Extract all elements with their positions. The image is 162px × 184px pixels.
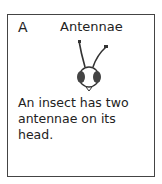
card-description: An insect has two antennae on its head. [18, 95, 150, 143]
insect-head-icon [61, 37, 121, 92]
vocabulary-card: A Antennae An insect has two antennae on… [7, 14, 155, 177]
card-word: Antennae [60, 19, 123, 34]
card-letter: A [18, 19, 28, 35]
